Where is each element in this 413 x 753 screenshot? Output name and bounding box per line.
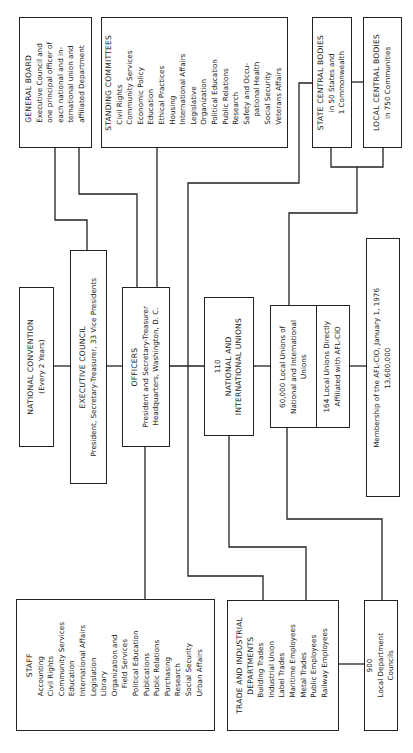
- unions-title-line: INTERNATIONAL UNIONS: [234, 318, 245, 415]
- councils-count: 900: [365, 633, 376, 697]
- committee-item: Civil Rights: [115, 35, 126, 131]
- tid-title-line: TRADE AND INDUSTRIAL: [235, 617, 246, 714]
- local-department-councils-text: 900 Local Department Councils: [365, 633, 397, 697]
- committee-item: Political Education: [210, 35, 221, 131]
- executive-council-text: EXECUTIVE COUNCIL President, Secretary-T…: [78, 278, 99, 457]
- committee-item: Public Relations: [221, 35, 232, 131]
- local-department-councils-box: 900 Local Department Councils: [364, 600, 398, 731]
- local-unions-line: National and International: [288, 320, 299, 414]
- committee-item: Economic Policy: [136, 35, 147, 131]
- committee-item: pational Health: [253, 35, 264, 131]
- staff-item: Accounting: [36, 622, 47, 708]
- committee-item: Organization: [200, 35, 211, 131]
- national-convention-text: NATIONAL CONVENTION (Every 2 Years): [26, 319, 47, 415]
- tid-item: Public Employees: [309, 617, 320, 714]
- staff-item: International Affairs: [78, 622, 89, 708]
- directly-affiliated-text: 164 Local Unions Directly Affiliated wit…: [322, 321, 343, 412]
- national-convention-box: NATIONAL CONVENTION (Every 2 Years): [19, 287, 54, 447]
- local-central-bodies-title: LOCAL CENTRAL BODIES: [372, 34, 383, 131]
- staff-item: Field Services: [121, 622, 132, 708]
- committee-item: Community Services: [126, 35, 137, 131]
- directly-affiliated-cell: 164 Local Unions Directly Affiliated wit…: [317, 306, 349, 427]
- trade-industrial-departments-box: TRADE AND INDUSTRIAL DEPARTMENTS Buildin…: [227, 600, 339, 731]
- staff-text: STAFF Accounting Civil Rights Community …: [25, 622, 205, 708]
- directly-affiliated-line: 164 Local Unions Directly: [322, 321, 333, 412]
- local-unions-line: 60,000 Local Unions of: [278, 320, 289, 414]
- general-board-line: one principal officer of: [45, 42, 56, 123]
- local-unions-box: 60,000 Local Unions of National and Inte…: [270, 305, 350, 428]
- membership-text: Membership of the AFL-CIO, January 1, 19…: [372, 288, 393, 448]
- state-central-bodies-title: STATE CENTRAL BODIES: [316, 35, 327, 130]
- tid-item: Label Trades: [278, 617, 289, 714]
- committee-item: Education: [147, 35, 158, 131]
- officers-line: President and Secretary-Treasurer: [141, 306, 152, 427]
- staff-item: Library: [100, 622, 111, 708]
- trade-industrial-departments-text: TRADE AND INDUSTRIAL DEPARTMENTS Buildin…: [235, 617, 330, 714]
- general-board-line: each national and in-: [56, 42, 67, 123]
- unions-count: 110: [213, 318, 224, 415]
- local-unions-text: 60,000 Local Unions of National and Inte…: [278, 320, 310, 414]
- committee-item: Housing: [168, 35, 179, 131]
- committee-item: Veterans Affairs: [274, 35, 285, 131]
- national-international-unions-text: 110 NATIONAL AND INTERNATIONAL UNIONS: [213, 318, 245, 415]
- membership-line: Membership of the AFL-CIO, January 1, 19…: [372, 288, 383, 448]
- tid-item: Metal Trades: [299, 617, 310, 714]
- councils-line: Councils: [386, 633, 397, 697]
- staff-item: Civil Rights: [47, 622, 58, 708]
- officers-title: OFFICERS: [130, 306, 141, 427]
- executive-council-box: EXECUTIVE COUNCIL President, Secretary-T…: [70, 250, 107, 484]
- committee-item: Legislative: [189, 35, 200, 131]
- tid-item: Maritime Employees: [288, 617, 299, 714]
- committee-item: Research: [232, 35, 243, 131]
- national-convention-title: NATIONAL CONVENTION: [26, 319, 37, 415]
- general-board-line: ternational union and: [66, 42, 77, 123]
- tid-title-line: DEPARTMENTS: [246, 617, 257, 714]
- tid-item: Railway Employees: [320, 617, 331, 714]
- staff-item: Purchasing: [163, 622, 174, 708]
- staff-item: Community Services: [57, 622, 68, 708]
- staff-item: Urban Affairs: [195, 622, 206, 708]
- committee-item: Ethical Practices: [157, 35, 168, 131]
- councils-line: Local Department: [376, 633, 387, 697]
- national-international-unions-box: 110 NATIONAL AND INTERNATIONAL UNIONS: [204, 297, 254, 436]
- national-convention-line: (Every 2 Years): [37, 319, 48, 415]
- unions-title-line: NATIONAL AND: [224, 318, 235, 415]
- executive-council-line: President, Secretary-Treasurer, 33 Vice …: [89, 278, 100, 457]
- staff-box: STAFF Accounting Civil Rights Community …: [16, 599, 215, 731]
- staff-title: STAFF: [25, 622, 36, 708]
- general-board-title: GENERAL BOARD: [24, 42, 35, 123]
- general-board-box: GENERAL BOARD Executive Council and one …: [19, 17, 92, 148]
- general-board-line: affiliated Department: [77, 42, 88, 123]
- standing-committees-box: STANDING COMMITTEES Civil Rights Communi…: [101, 17, 288, 148]
- tid-item: Industrial Union: [267, 617, 278, 714]
- officers-box: OFFICERS President and Secretary-Treasur…: [122, 287, 170, 447]
- staff-item: Public Relations: [153, 622, 164, 708]
- local-unions-cell: 60,000 Local Unions of National and Inte…: [271, 306, 316, 427]
- directly-affiliated-line: Affiliated with AFL-CIO: [333, 321, 344, 412]
- general-board-text: GENERAL BOARD Executive Council and one …: [24, 42, 88, 123]
- staff-item: Social Security: [184, 622, 195, 708]
- staff-item: Research: [174, 622, 185, 708]
- officers-line: Headquarters, Washington, D. C.: [151, 306, 162, 427]
- staff-item: Political Education: [131, 622, 142, 708]
- committee-item: Social Security: [263, 35, 274, 131]
- general-board-line: Executive Council and: [34, 42, 45, 123]
- staff-item: Publications: [142, 622, 153, 708]
- standing-committees-title: STANDING COMMITTEES: [104, 35, 115, 131]
- staff-item: Legislation: [89, 622, 100, 708]
- committee-item: International Affairs: [179, 35, 190, 131]
- local-central-bodies-text: LOCAL CENTRAL BODIES in 750 Communities: [372, 34, 393, 131]
- executive-council-title: EXECUTIVE COUNCIL: [78, 278, 89, 457]
- staff-item: Education: [68, 622, 79, 708]
- membership-count: 13,600,000: [383, 288, 394, 448]
- state-central-bodies-line: in 50 States and: [327, 35, 338, 130]
- state-central-bodies-text: STATE CENTRAL BODIES in 50 States and 1 …: [316, 35, 348, 130]
- local-central-bodies-box: LOCAL CENTRAL BODIES in 750 Communities: [363, 17, 402, 148]
- officers-text: OFFICERS President and Secretary-Treasur…: [130, 306, 162, 427]
- membership-box: Membership of the AFL-CIO, January 1, 19…: [366, 238, 400, 497]
- standing-committees-text: STANDING COMMITTEES Civil Rights Communi…: [104, 35, 284, 131]
- local-central-bodies-line: in 750 Communities: [383, 34, 394, 131]
- staff-item: Organization and: [110, 622, 121, 708]
- committee-item: Safety and Occu-: [242, 35, 253, 131]
- state-central-bodies-line: 1 Commonwealth: [337, 35, 348, 130]
